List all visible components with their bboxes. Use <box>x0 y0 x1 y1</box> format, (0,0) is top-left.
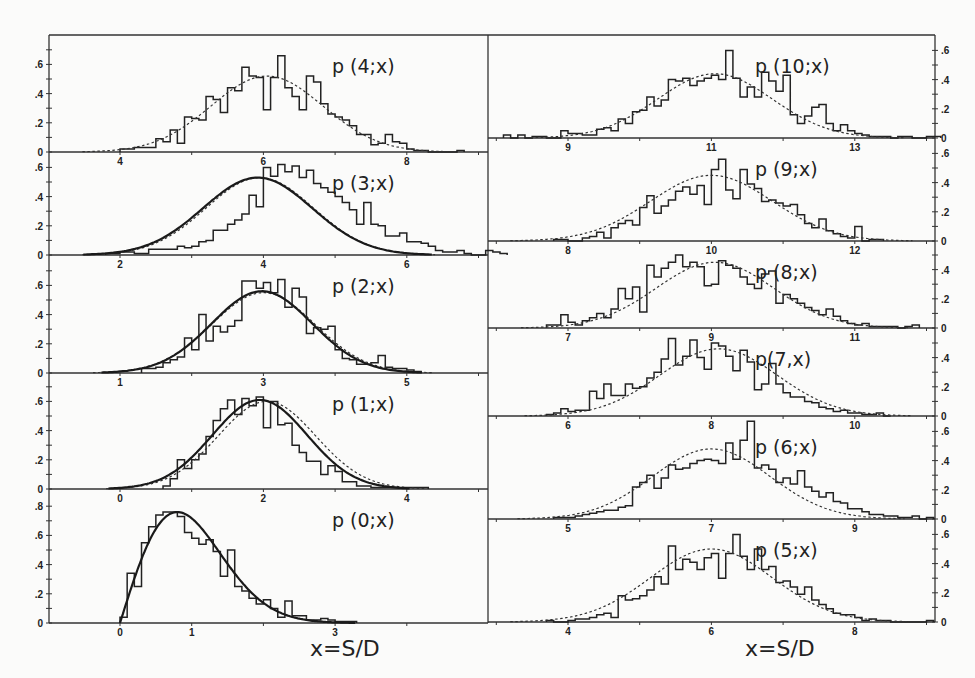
y-tick-label: 0 <box>37 484 43 495</box>
y-tick-label: .6 <box>35 280 44 291</box>
panel-title: p (5;x) <box>755 539 818 561</box>
histogram <box>554 159 884 241</box>
histogram <box>546 339 890 416</box>
x-tick-label: 0 <box>117 493 123 504</box>
x-tick-label: 7 <box>565 332 571 343</box>
x-tick-label: 6 <box>709 626 715 637</box>
x-tick-label: 6 <box>404 259 410 270</box>
dashed-fit-curve <box>82 76 450 152</box>
x-tick-label: 8 <box>404 156 410 167</box>
y-tick-label: .4 <box>35 310 44 321</box>
y-tick-label: .2 <box>941 104 950 115</box>
x-tick-label: 6 <box>261 156 267 167</box>
y-tick-label: 0 <box>941 236 947 247</box>
y-tick-label: .4 <box>941 178 950 189</box>
y-tick-label: .4 <box>35 426 44 437</box>
y-tick-label: .4 <box>941 353 950 364</box>
y-tick-label: .2 <box>941 485 950 496</box>
x-tick-label: 13 <box>849 142 861 153</box>
y-tick-label: .2 <box>35 118 44 129</box>
panel-p2: 1350.2.4.6p (2;x) <box>35 271 488 388</box>
x-tick-label: 7 <box>709 523 715 534</box>
y-tick-label: 0 <box>941 133 947 144</box>
y-tick-label: .4 <box>941 456 950 467</box>
y-tick-label: .6 <box>941 426 950 437</box>
panel-p7: 68100.2.4p(7,x) <box>488 339 950 431</box>
y-tick-label: .2 <box>941 382 950 393</box>
y-tick-label: .6 <box>35 59 44 70</box>
x-tick-label: 9 <box>709 332 715 343</box>
panel-title: p (10;x) <box>755 55 830 77</box>
x-tick-label: 10 <box>706 245 718 256</box>
panel-p4: 4680.2.4.6p (4;x) <box>35 50 488 167</box>
y-tick-label: .2 <box>941 294 950 305</box>
x-tick-label: 8 <box>565 245 571 256</box>
y-tick-label: .4 <box>35 89 44 100</box>
dashed-fit-curve <box>525 349 912 416</box>
histogram <box>106 164 508 255</box>
x-axis-title-right: x=S/D <box>745 636 815 661</box>
solid-fit-curve <box>101 291 422 372</box>
y-tick-label: .4 <box>35 560 44 571</box>
x-tick-label: 4 <box>565 626 571 637</box>
y-tick-label: 0 <box>941 323 947 334</box>
histogram <box>120 56 464 152</box>
y-tick-label: 0 <box>37 368 43 379</box>
panel-title: p(7,x) <box>755 348 811 370</box>
x-tick-label: 11 <box>850 332 861 343</box>
histogram <box>546 534 933 622</box>
dashed-fit-curve <box>93 293 433 373</box>
y-tick-label: .6 <box>941 45 950 56</box>
panel-p5: 4680.2.4.6p (5;x) <box>488 529 950 637</box>
y-tick-label: 0 <box>941 411 947 422</box>
y-tick-label: 0 <box>37 250 43 261</box>
panel-p1: 0240.2.4.6p (1;x) <box>35 387 488 504</box>
y-tick-label: .6 <box>941 529 950 540</box>
x-tick-label: 10 <box>849 420 861 431</box>
x-tick-label: 4 <box>261 259 267 270</box>
histogram <box>546 255 919 328</box>
y-tick-label: .2 <box>941 588 950 599</box>
y-tick-label: .2 <box>35 589 44 600</box>
histogram <box>554 421 934 519</box>
histogram <box>503 50 940 138</box>
y-tick-label: 0 <box>37 147 43 158</box>
y-tick-label: .4 <box>941 559 950 570</box>
panel-p8: 79110.2.4p (8;x) <box>488 255 950 343</box>
x-tick-label: 9 <box>852 523 858 534</box>
y-tick-label: 0 <box>941 617 947 628</box>
y-tick-label: .2 <box>35 221 44 232</box>
panel-p10: 911130.2.4.6p (10;x) <box>488 45 950 153</box>
x-tick-label: 4 <box>117 156 123 167</box>
y-tick-label: .6 <box>941 148 950 159</box>
panel-title: p (3;x) <box>332 172 395 194</box>
x-tick-label: 0 <box>117 627 123 638</box>
x-tick-label: 1 <box>189 627 195 638</box>
panel-title: p (4;x) <box>332 55 395 77</box>
x-tick-label: 2 <box>117 259 123 270</box>
panel-title: p (8;x) <box>755 261 818 283</box>
panel-p0: 0130.2.4.6.8p (0;x) <box>35 501 488 638</box>
panel-title: p (1;x) <box>332 393 395 415</box>
y-tick-label: .2 <box>941 207 950 218</box>
solid-fit-curve <box>120 512 355 623</box>
y-tick-label: 0 <box>37 618 43 629</box>
x-tick-label: 5 <box>565 523 571 534</box>
y-tick-label: .6 <box>35 396 44 407</box>
x-tick-label: 3 <box>261 377 267 388</box>
figure: 4680.2.4.6p (4;x)2460.2.4.6p (3;x)1350.2… <box>0 0 975 678</box>
x-tick-label: 8 <box>852 626 858 637</box>
y-tick-label: .6 <box>35 530 44 541</box>
panel-title: p (2;x) <box>332 275 395 297</box>
x-axis-title-left: x=S/D <box>310 636 380 661</box>
panel-p9: 810120.2.4.6p (9;x) <box>488 148 950 256</box>
y-tick-label: .2 <box>35 339 44 350</box>
x-tick-label: 1 <box>117 377 123 388</box>
y-tick-label: .4 <box>941 75 950 86</box>
dashed-fit-curve <box>510 549 910 622</box>
panel-title: p (6;x) <box>755 436 818 458</box>
histogram-grid: 4680.2.4.6p (4;x)2460.2.4.6p (3;x)1350.2… <box>0 0 975 678</box>
panel-p6: 5790.2.4.6p (6;x) <box>488 421 950 534</box>
y-tick-label: .6 <box>35 162 44 173</box>
panel-title: p (0;x) <box>332 509 395 531</box>
